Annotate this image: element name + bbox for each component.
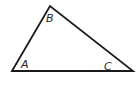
vertex-label-b: B: [46, 12, 54, 25]
triangle-diagram: A B C: [0, 0, 139, 86]
vertex-label-a: A: [20, 58, 29, 71]
triangle-abc: [12, 6, 133, 71]
vertex-label-c: C: [104, 60, 112, 73]
